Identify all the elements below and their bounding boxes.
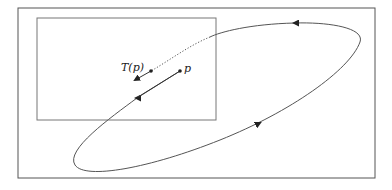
point-tp (149, 69, 153, 73)
dotted-connection (151, 37, 210, 71)
point-p (178, 69, 182, 73)
diagram-canvas (0, 0, 392, 190)
orbit-curve (74, 23, 361, 172)
outer-region (18, 8, 375, 178)
label-p: p (184, 62, 191, 75)
label-tp: T(p) (121, 61, 144, 74)
